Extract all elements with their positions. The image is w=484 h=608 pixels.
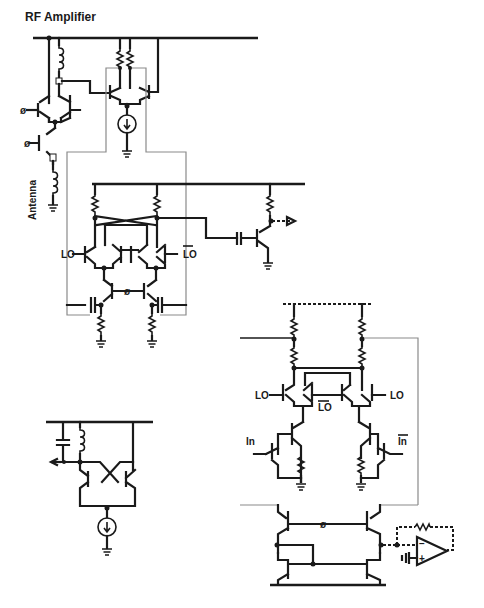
lo-label-left: LO — [61, 249, 75, 260]
bias-symbol-4: ø — [320, 519, 327, 530]
antenna-label: Antenna — [27, 180, 38, 220]
bias-symbol-3: ø — [124, 286, 131, 297]
opamp-minus: − — [419, 538, 425, 549]
rf-amplifier-section: ø ø Antenna — [20, 36, 258, 316]
diagram-title: RF Amplifier — [25, 10, 96, 24]
output-buffer-section — [237, 184, 295, 269]
bias-symbol: ø — [20, 105, 27, 116]
lo-label-mixer-left: LO — [255, 390, 269, 401]
bias-symbol-2: ø — [24, 138, 31, 149]
circuit-schematic: RF Amplifier ø ø Antenna — [0, 0, 484, 608]
stacked-mixer-section: LO LO LO In In — [240, 304, 418, 505]
opamp-plus: + — [419, 553, 425, 564]
lo-label-mixer-right: LO — [390, 390, 404, 401]
lc-oscillator-section — [46, 422, 153, 555]
lo-bar-label-right: LO — [183, 249, 197, 260]
lo-bar-label-mixer: LO — [318, 402, 332, 413]
in-label: In — [246, 436, 255, 447]
in-bar-label: In — [398, 436, 407, 447]
current-mirror-opamp-section: ø − + — [240, 505, 453, 585]
